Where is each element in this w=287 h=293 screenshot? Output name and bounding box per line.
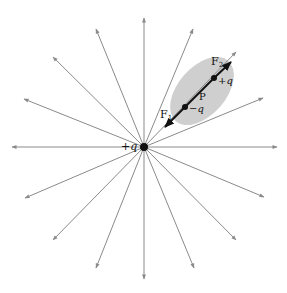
field-line	[96, 147, 144, 268]
force-f1-label: F1	[160, 108, 172, 122]
dipole-field-diagram: +q F1 F2 P −q +q	[0, 0, 287, 293]
source-charge-dot	[140, 143, 148, 151]
field-line	[53, 147, 144, 240]
positive-charge-dot	[211, 75, 217, 81]
field-line	[96, 29, 144, 147]
field-line	[53, 57, 144, 147]
field-line	[144, 147, 236, 240]
source-charge-label: +q	[121, 140, 137, 153]
negative-charge-dot	[182, 104, 188, 110]
negative-charge-label: −q	[189, 103, 204, 114]
field-line	[25, 147, 144, 198]
dipole-label: P	[199, 91, 206, 102]
positive-charge-label: +q	[218, 75, 233, 86]
force-f2-label: F2	[211, 55, 223, 69]
